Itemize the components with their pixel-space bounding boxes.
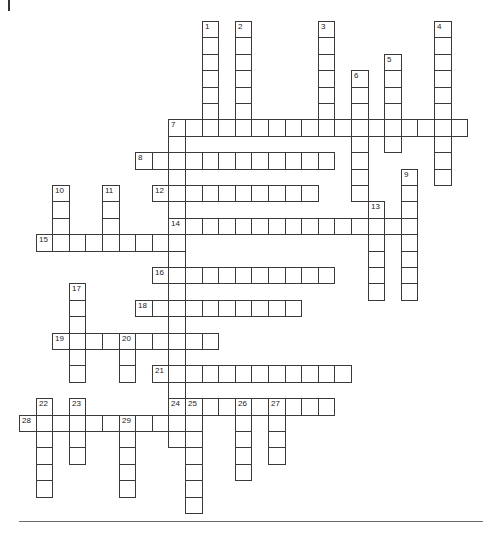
crossword-cell[interactable] [36, 431, 53, 448]
crossword-cell[interactable] [351, 136, 369, 153]
crossword-cell[interactable] [251, 398, 269, 416]
crossword-cell[interactable]: 26 [235, 398, 252, 416]
crossword-cell[interactable] [251, 152, 269, 170]
crossword-cell[interactable]: 28 [19, 415, 37, 432]
crossword-cell[interactable] [168, 382, 186, 399]
crossword-cell[interactable] [285, 267, 302, 284]
crossword-cell[interactable] [218, 300, 236, 317]
crossword-cell[interactable] [135, 415, 153, 432]
crossword-cell[interactable] [235, 54, 252, 71]
crossword-cell[interactable] [185, 333, 203, 350]
crossword-cell[interactable]: 21 [152, 365, 169, 383]
crossword-cell[interactable] [351, 119, 369, 137]
crossword-cell[interactable] [401, 234, 418, 252]
crossword-cell[interactable] [235, 152, 252, 170]
crossword-cell[interactable] [52, 415, 70, 432]
crossword-cell[interactable] [301, 267, 319, 284]
crossword-cell[interactable] [202, 300, 219, 317]
crossword-cell[interactable]: 27 [268, 398, 286, 416]
crossword-cell[interactable] [235, 447, 252, 465]
crossword-cell[interactable] [168, 365, 186, 383]
crossword-cell[interactable]: 24 [168, 398, 186, 416]
crossword-cell[interactable] [52, 201, 70, 219]
crossword-cell[interactable]: 25 [185, 398, 203, 416]
crossword-cell[interactable] [285, 185, 302, 202]
crossword-cell[interactable] [351, 87, 369, 104]
crossword-cell[interactable] [202, 185, 219, 202]
crossword-cell[interactable] [251, 185, 269, 202]
crossword-cell[interactable] [235, 218, 252, 235]
crossword-cell[interactable] [218, 218, 236, 235]
crossword-cell[interactable] [235, 119, 252, 137]
crossword-cell[interactable] [52, 218, 70, 235]
crossword-cell[interactable] [401, 119, 418, 137]
crossword-cell[interactable] [168, 152, 186, 170]
crossword-cell[interactable] [36, 480, 53, 498]
crossword-cell[interactable] [434, 136, 452, 153]
crossword-cell[interactable] [168, 316, 186, 334]
crossword-cell[interactable] [52, 234, 70, 252]
crossword-cell[interactable] [202, 103, 219, 120]
crossword-cell[interactable] [351, 169, 369, 186]
crossword-cell[interactable] [102, 234, 120, 252]
crossword-cell[interactable] [218, 365, 236, 383]
crossword-cell[interactable] [102, 218, 120, 235]
crossword-cell[interactable]: 13 [368, 201, 385, 219]
crossword-cell[interactable] [202, 37, 219, 55]
crossword-cell[interactable]: 11 [102, 185, 120, 202]
crossword-cell[interactable] [69, 365, 86, 383]
crossword-cell[interactable] [168, 267, 186, 284]
crossword-cell[interactable] [285, 300, 302, 317]
crossword-cell[interactable] [401, 251, 418, 268]
crossword-cell[interactable]: 12 [152, 185, 169, 202]
crossword-cell[interactable] [251, 267, 269, 284]
crossword-cell[interactable] [401, 201, 418, 219]
crossword-cell[interactable] [301, 218, 319, 235]
crossword-cell[interactable] [368, 283, 385, 301]
crossword-cell[interactable] [318, 267, 335, 284]
crossword-cell[interactable] [168, 251, 186, 268]
crossword-cell[interactable] [251, 218, 269, 235]
crossword-cell[interactable] [268, 218, 286, 235]
crossword-cell[interactable] [368, 234, 385, 252]
crossword-cell[interactable] [202, 218, 219, 235]
crossword-cell[interactable] [434, 87, 452, 104]
crossword-cell[interactable] [434, 70, 452, 88]
crossword-cell[interactable] [318, 70, 335, 88]
crossword-cell[interactable] [85, 415, 103, 432]
crossword-cell[interactable] [218, 398, 236, 416]
crossword-cell[interactable] [218, 152, 236, 170]
crossword-cell[interactable] [384, 103, 402, 120]
crossword-cell[interactable] [434, 152, 452, 170]
crossword-cell[interactable] [318, 103, 335, 120]
crossword-cell[interactable] [69, 300, 86, 317]
crossword-cell[interactable] [85, 333, 103, 350]
crossword-cell[interactable] [218, 267, 236, 284]
crossword-cell[interactable] [69, 333, 86, 350]
crossword-cell[interactable] [69, 447, 86, 465]
crossword-cell[interactable] [135, 333, 153, 350]
crossword-cell[interactable] [434, 169, 452, 186]
crossword-cell[interactable] [235, 37, 252, 55]
crossword-cell[interactable] [202, 365, 219, 383]
crossword-cell[interactable] [135, 234, 153, 252]
crossword-cell[interactable] [434, 103, 452, 120]
crossword-cell[interactable] [202, 152, 219, 170]
crossword-cell[interactable] [318, 37, 335, 55]
crossword-cell[interactable] [102, 333, 120, 350]
crossword-cell[interactable] [285, 218, 302, 235]
crossword-cell[interactable] [152, 234, 169, 252]
crossword-cell[interactable] [202, 87, 219, 104]
crossword-cell[interactable]: 15 [36, 234, 53, 252]
crossword-cell[interactable] [36, 464, 53, 481]
crossword-cell[interactable] [185, 415, 203, 432]
crossword-cell[interactable] [434, 119, 452, 137]
crossword-cell[interactable] [301, 398, 319, 416]
crossword-cell[interactable] [384, 218, 402, 235]
crossword-cell[interactable] [318, 119, 335, 137]
crossword-cell[interactable] [268, 447, 286, 465]
crossword-cell[interactable] [152, 333, 169, 350]
crossword-cell[interactable] [168, 136, 186, 153]
crossword-cell[interactable] [168, 349, 186, 366]
crossword-cell[interactable] [185, 152, 203, 170]
